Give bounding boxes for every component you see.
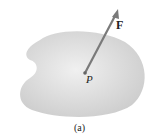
rigid-body-shape [20,31,145,117]
figure-caption: (a) [0,122,159,133]
point-label: P [86,73,93,85]
force-label: F [116,18,123,33]
diagram-canvas [0,0,159,140]
